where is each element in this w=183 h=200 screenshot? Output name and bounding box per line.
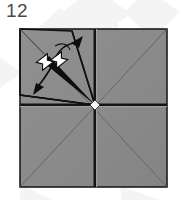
origami-diagram [0, 0, 183, 200]
figure-page: 12 [0, 0, 183, 200]
